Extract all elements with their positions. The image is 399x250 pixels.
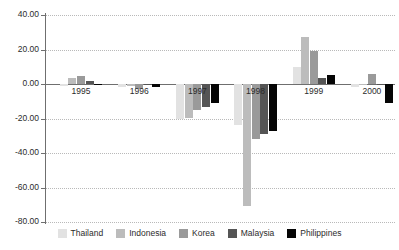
bar-indonesia-1999 xyxy=(301,37,309,84)
bar-indonesia-1995 xyxy=(68,78,76,84)
bar-korea-1995 xyxy=(77,76,85,84)
bar-indonesia-1998 xyxy=(243,84,251,206)
x-axis-category-label: 1997 xyxy=(166,86,228,96)
bar-malaysia-1999 xyxy=(318,78,326,84)
bar-group xyxy=(293,15,335,222)
bar-malaysia-1995 xyxy=(86,81,94,84)
x-axis-category-label: 1998 xyxy=(224,86,286,96)
y-axis-tick-label: -80.00 xyxy=(0,217,39,226)
legend-label: Malaysia xyxy=(241,228,275,238)
x-axis-category-label: 1995 xyxy=(50,86,112,96)
bar-philippines-1999 xyxy=(327,75,335,84)
legend-label: Philippines xyxy=(300,228,341,238)
legend-label: Indonesia xyxy=(129,228,166,238)
bar-korea-2000 xyxy=(368,74,376,84)
bar-group xyxy=(176,15,218,222)
plot-area xyxy=(46,15,395,222)
chart-legend: ThailandIndonesiaKoreaMalaysiaPhilippine… xyxy=(0,228,399,238)
bar-chart: 40.0020.000.00-20.00-40.00-60.00-80.00 T… xyxy=(0,0,399,250)
bar-korea-1999 xyxy=(310,51,318,84)
legend-item-indonesia[interactable]: Indonesia xyxy=(116,228,166,238)
x-axis-category-label: 1999 xyxy=(283,86,345,96)
y-axis-tick-label: 20.00 xyxy=(0,45,39,54)
y-axis-tick-label: -60.00 xyxy=(0,183,39,192)
legend-swatch-icon xyxy=(287,229,296,238)
y-axis-tick-label: 40.00 xyxy=(0,10,39,19)
bar-thailand-1999 xyxy=(293,67,301,84)
y-axis-tick-label: -40.00 xyxy=(0,148,39,157)
legend-swatch-icon xyxy=(58,229,67,238)
bar-group xyxy=(351,15,393,222)
legend-label: Korea xyxy=(192,228,215,238)
x-axis-category-label: 2000 xyxy=(341,86,399,96)
legend-item-thailand[interactable]: Thailand xyxy=(58,228,104,238)
y-axis-line xyxy=(45,13,46,224)
legend-swatch-icon xyxy=(228,229,237,238)
bar-malaysia-1996 xyxy=(144,84,152,85)
y-axis-tick-label: -20.00 xyxy=(0,114,39,123)
gridline xyxy=(46,222,395,223)
x-axis-category-label: 1996 xyxy=(108,86,170,96)
legend-swatch-icon xyxy=(179,229,188,238)
legend-label: Thailand xyxy=(71,228,104,238)
bar-group xyxy=(234,15,276,222)
y-axis-tick-label: 0.00 xyxy=(0,79,39,88)
bar-indonesia-2000 xyxy=(359,84,367,85)
bar-group xyxy=(60,15,102,222)
bar-malaysia-2000 xyxy=(377,84,385,85)
legend-item-philippines[interactable]: Philippines xyxy=(287,228,341,238)
legend-item-malaysia[interactable]: Malaysia xyxy=(228,228,275,238)
bar-group xyxy=(118,15,160,222)
legend-item-korea[interactable]: Korea xyxy=(179,228,215,238)
bar-philippines-1995 xyxy=(94,84,102,85)
legend-swatch-icon xyxy=(116,229,125,238)
